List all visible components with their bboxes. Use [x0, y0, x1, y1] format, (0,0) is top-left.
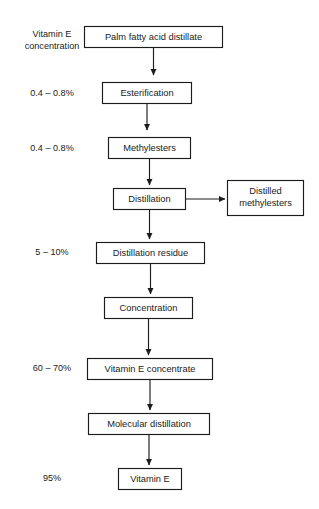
node-label-distillation-residue: Distillation residue: [113, 248, 188, 258]
node-label-distillation: Distillation: [128, 194, 170, 204]
side-label-conc-esterification: 0.4 – 0.8%: [30, 88, 73, 98]
node-palm-fatty-acid-distillate[interactable]: Palm fatty acid distillate: [85, 27, 223, 48]
side-column-header: Vitamin E concentration: [25, 29, 80, 51]
node-label-concentration: Concentration: [120, 303, 178, 313]
flowchart-canvas: Vitamin E concentration 0.4 – 0.8% 0.4 –…: [0, 0, 319, 509]
side-column-header-line1: Vitamin E: [33, 29, 72, 39]
node-label-distilled-methylesters-line1: Distilled: [249, 186, 282, 196]
node-vitamin-e[interactable]: Vitamin E: [119, 469, 182, 490]
node-concentration[interactable]: Concentration: [105, 298, 193, 319]
node-label-distilled-methylesters-line2: methylesters: [239, 198, 292, 208]
side-label-conc-methylesters: 0.4 – 0.8%: [30, 143, 73, 153]
node-label-vitamin-e: Vitamin E: [130, 474, 170, 484]
node-esterification[interactable]: Esterification: [103, 83, 192, 104]
node-molecular-distillation[interactable]: Molecular distillation: [89, 414, 210, 435]
flowchart-diagram: Vitamin E concentration 0.4 – 0.8% 0.4 –…: [0, 0, 319, 509]
node-label-esterification: Esterification: [120, 88, 173, 98]
node-methylesters[interactable]: Methylesters: [109, 138, 191, 159]
node-distillation[interactable]: Distillation: [114, 189, 186, 210]
side-label-conc-distillation-residue: 5 – 10%: [35, 247, 68, 257]
node-label-vitamin-e-concentrate: Vitamin E concentrate: [105, 364, 196, 374]
side-label-conc-vitamin-e-concentrate: 60 – 70%: [33, 363, 71, 373]
side-column-header-line2: concentration: [25, 41, 80, 51]
node-distillation-residue[interactable]: Distillation residue: [97, 243, 205, 264]
node-distilled-methylesters[interactable]: Distilled methylesters: [228, 181, 304, 216]
node-vitamin-e-concentrate[interactable]: Vitamin E concentrate: [88, 359, 213, 380]
side-label-conc-vitamin-e: 95%: [43, 473, 61, 483]
node-label-palm-fatty-acid-distillate: Palm fatty acid distillate: [105, 32, 202, 42]
node-label-methylesters: Methylesters: [123, 143, 176, 153]
node-label-molecular-distillation: Molecular distillation: [107, 419, 191, 429]
